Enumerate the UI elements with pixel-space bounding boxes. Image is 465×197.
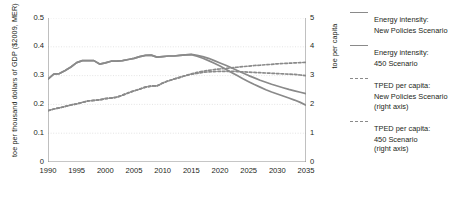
legend-item[interactable]: Energy intensity:New Policies Scenario — [350, 8, 465, 35]
legend-item[interactable]: TPED per capita:New Policies Scenario(ri… — [350, 74, 465, 110]
legend-label-line: (right axis) — [374, 102, 465, 111]
legend-dashed-line-icon — [350, 121, 368, 122]
legend-label-line: 450 Scenario — [374, 59, 465, 68]
legend-label: TPED per capita:New Policies Scenario(ri… — [374, 81, 465, 110]
x-tick-label: 2000 — [91, 167, 119, 175]
x-tick-label: 2020 — [206, 167, 234, 175]
legend-label: TPED per capita:450 Scenario(right axis) — [374, 124, 465, 153]
x-tick-label: 2015 — [177, 167, 205, 175]
x-tick-label: 2025 — [235, 167, 263, 175]
legend-item[interactable]: TPED per capita:450 Scenario(right axis) — [350, 117, 465, 153]
legend-solid-line-icon — [350, 45, 368, 46]
legend-label-line: 450 Scenario — [374, 135, 465, 144]
legend-label-line: TPED per capita: — [374, 81, 430, 90]
x-tick-label: 2030 — [263, 167, 291, 175]
chart-container: toe per thousand dollars of GDP ($2009, … — [0, 0, 465, 197]
chart-svg — [48, 18, 306, 162]
x-tick-label: 1990 — [34, 167, 62, 175]
legend-dashed-line-icon — [350, 78, 368, 79]
x-tick-label: 2010 — [149, 167, 177, 175]
legend-item[interactable]: Energy intensity:450 Scenario — [350, 41, 465, 68]
legend-label-line: TPED per capita: — [374, 124, 430, 133]
series-line — [48, 62, 306, 110]
legend-solid-line-icon — [350, 12, 368, 13]
legend-label: Energy intensity:450 Scenario — [374, 48, 465, 68]
x-tick-label: 1995 — [63, 167, 91, 175]
legend-label: Energy intensity:New Policies Scenario — [374, 15, 465, 35]
legend-label-line: New Policies Scenario — [374, 26, 465, 35]
chart-legend: Energy intensity:New Policies ScenarioEn… — [350, 8, 465, 159]
x-tick-label: 2035 — [292, 167, 320, 175]
legend-label-line: New Policies Scenario — [374, 92, 465, 101]
x-tick-label: 2005 — [120, 167, 148, 175]
series-line — [48, 55, 306, 106]
legend-label-line: Energy intensity: — [374, 15, 429, 24]
legend-label-line: (right axis) — [374, 144, 465, 153]
legend-label-line: Energy intensity: — [374, 48, 429, 57]
plot-area — [48, 18, 306, 162]
